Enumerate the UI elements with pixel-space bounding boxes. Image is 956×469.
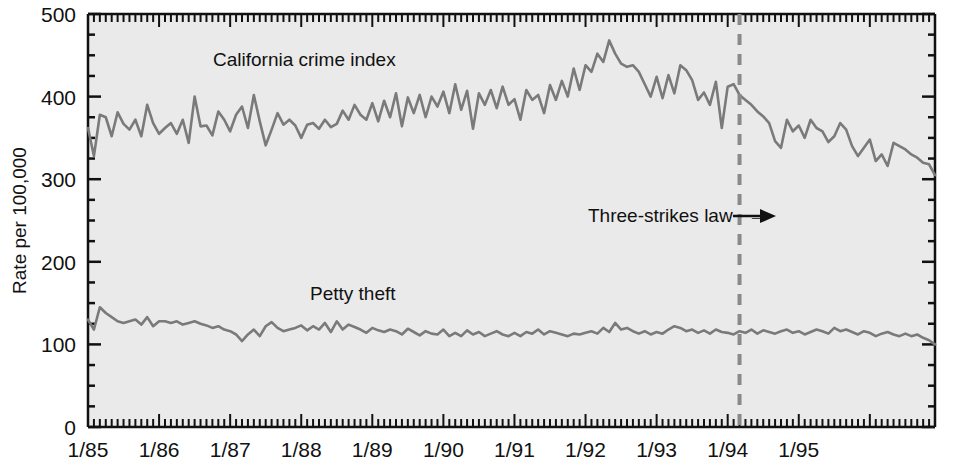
x-tick-label: 1/88 xyxy=(281,438,322,461)
y-tick-label: 0 xyxy=(64,416,76,439)
x-tick-label: 1/86 xyxy=(139,438,180,461)
chart-svg: 01002003004005001/851/861/871/881/891/90… xyxy=(0,0,956,469)
x-tick-label: 1/85 xyxy=(68,438,109,461)
plot-background xyxy=(88,14,935,427)
y-tick-label: 500 xyxy=(41,3,76,26)
x-tick-label: 1/87 xyxy=(210,438,251,461)
x-tick-label: 1/94 xyxy=(707,438,748,461)
y-tick-label: 300 xyxy=(41,168,76,191)
y-tick-label: 100 xyxy=(41,333,76,356)
y-axis-title: Rate per 100,000 xyxy=(9,147,30,294)
y-tick-label: 400 xyxy=(41,86,76,109)
x-tick-label: 1/95 xyxy=(778,438,819,461)
petty-theft-label: Petty theft xyxy=(310,283,396,304)
x-tick-label: 1/90 xyxy=(423,438,464,461)
y-tick-label: 200 xyxy=(41,251,76,274)
x-tick-label: 1/89 xyxy=(352,438,393,461)
x-tick-label: 1/93 xyxy=(636,438,677,461)
california-crime-index-label: California crime index xyxy=(213,49,396,70)
three-strikes-label: Three-strikes law xyxy=(588,205,733,226)
x-tick-label: 1/91 xyxy=(494,438,535,461)
x-tick-label: 1/92 xyxy=(565,438,606,461)
chart-figure: 01002003004005001/851/861/871/881/891/90… xyxy=(0,0,956,469)
